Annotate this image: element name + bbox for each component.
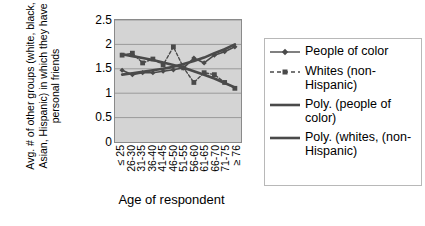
- data-point-marker-square: [212, 72, 217, 77]
- legend-item[interactable]: Whites (non-Hispanic): [268, 64, 418, 92]
- legend-key-thick-line-icon: [268, 98, 302, 112]
- chart-legend: People of colorWhites (non-Hispanic)Poly…: [264, 38, 422, 186]
- legend-item-label: Poly. (people of color): [305, 97, 418, 125]
- data-point-marker-square: [171, 44, 176, 49]
- x-tick-label: ≥ 76: [231, 145, 242, 191]
- y-tick-label: 1: [86, 87, 112, 99]
- y-tick-label: 0: [86, 136, 112, 148]
- legend-item[interactable]: Poly. (whites, (non-Hispanic): [268, 130, 418, 158]
- data-point-marker-square: [140, 61, 145, 66]
- legend-key: [268, 131, 302, 145]
- legend-item-label: People of color: [305, 44, 388, 58]
- y-tick-label: 2.5: [86, 14, 112, 26]
- x-axis-tick-labels: ≤ 2526-3031-3536-4041-4546-5051-5556-606…: [114, 145, 243, 193]
- y-axis-title: Avg. # of other groups (white, black, As…: [24, 2, 62, 170]
- legend-key-thick-line-icon: [268, 131, 302, 145]
- y-tick-label: 1.5: [86, 62, 112, 74]
- y-axis-tick-labels: 2.5 2 1.5 1 0.5 0: [84, 0, 112, 160]
- y-axis-title-container: Avg. # of other groups (white, black, As…: [0, 0, 86, 172]
- legend-item[interactable]: Poly. (people of color): [268, 97, 418, 125]
- y-tick-label: 2: [86, 38, 112, 50]
- diamond-marker-icon: [282, 49, 288, 55]
- legend-item-label: Whites (non-Hispanic): [305, 64, 418, 92]
- data-point-marker-square: [191, 80, 196, 85]
- legend-item[interactable]: People of color: [268, 44, 418, 59]
- legend-key: [268, 98, 302, 112]
- legend-item-label: Poly. (whites, (non-Hispanic): [305, 130, 418, 158]
- plot-area: [114, 19, 242, 143]
- legend-key-diamond-line-icon: [268, 45, 302, 59]
- legend-key: [268, 65, 302, 79]
- x-axis-title: Age of respondent: [84, 192, 259, 208]
- y-tick-label: 0.5: [86, 111, 112, 123]
- legend-key-square-dashed-icon: [268, 65, 302, 79]
- square-marker-icon: [283, 70, 288, 75]
- chart-figure: Avg. # of other groups (white, black, As…: [0, 0, 425, 226]
- legend-key: [268, 45, 302, 59]
- plot-canvas: [115, 20, 241, 142]
